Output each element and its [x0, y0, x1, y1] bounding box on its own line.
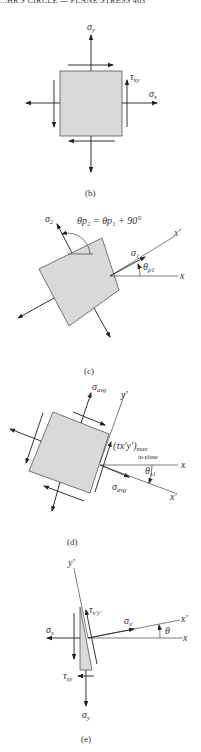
label-sigma-x: σx: [149, 88, 157, 100]
stress-diagrams: σy σx τxy (b) σ2 θp₂ = θp₁ + 90° σ1 θp1 …: [0, 0, 201, 752]
panel-b: σy σx τxy (b): [26, 21, 157, 198]
theta-arc: [159, 625, 160, 638]
label-theta-p1: θp1: [143, 261, 154, 273]
label-tau-max: (τx′y′)max: [113, 440, 147, 452]
label-sigma-avg-top: σavg: [92, 381, 107, 393]
label-sigma-x-prime: σx′: [124, 615, 134, 627]
sigma-avg-arrow-bottom: [52, 482, 60, 511]
label-tau-xy: τxy: [63, 670, 72, 682]
label-equation: θp₂ = θp₁ + 90°: [77, 215, 141, 226]
label-tau-xy: τxy: [130, 71, 139, 83]
label-sigma-2: σ2: [45, 213, 54, 225]
sigma-2-arrow: [57, 224, 72, 253]
stress-element-square: [60, 71, 122, 136]
caption-c: (c): [84, 366, 94, 376]
sigma-avg-arrow-right: [100, 465, 129, 477]
panel-d: σavg y′ (τx′y′)max in-plane σavg θs1 x x…: [10, 381, 186, 547]
caption-d: (d): [67, 537, 78, 547]
sigma-1-arrow-opposite: [18, 298, 54, 318]
label-x: x: [180, 459, 186, 470]
label-sigma-1: σ1: [131, 247, 139, 259]
sigma-x-prime-arrow: [88, 629, 134, 638]
label-x-prime: x′: [173, 227, 181, 238]
label-theta-s1: θs1: [145, 465, 156, 477]
sigma-2-arrow-opposite: [94, 308, 110, 337]
label-tau-x-prime-y-prime: τx′y′: [89, 604, 102, 616]
label-y-prime: y′: [120, 389, 128, 400]
sigma-avg-arrow-left: [10, 429, 41, 441]
label-x-prime: x′: [169, 491, 177, 502]
theta-p1-arc: [138, 264, 140, 276]
label-sigma-y: σy: [87, 21, 95, 33]
y-prime-axis: [100, 393, 125, 463]
label-x-prime: x′: [180, 613, 188, 624]
max-shear-element: [29, 412, 109, 493]
label-theta: θ: [165, 625, 170, 636]
label-x: x: [182, 632, 188, 643]
panel-c: σ2 θp₂ = θp₁ + 90° σ1 θp1 x′ x (c): [18, 213, 185, 376]
label-sigma-x: σx: [46, 624, 54, 636]
principal-element: [39, 238, 119, 326]
panel-e: y′ τx′y′ σx′ σx τxy σy θ x x′ (e): [46, 557, 188, 744]
caption-e: (e): [81, 734, 91, 744]
label-x: x: [179, 270, 185, 281]
wedge-element: [80, 607, 92, 670]
caption-b: (b): [85, 188, 96, 198]
label-in-plane: in-plane: [138, 454, 158, 460]
label-y-prime: y′: [67, 557, 75, 568]
label-sigma-avg-right: σavg: [112, 481, 127, 493]
label-sigma-y: σy: [82, 709, 90, 721]
